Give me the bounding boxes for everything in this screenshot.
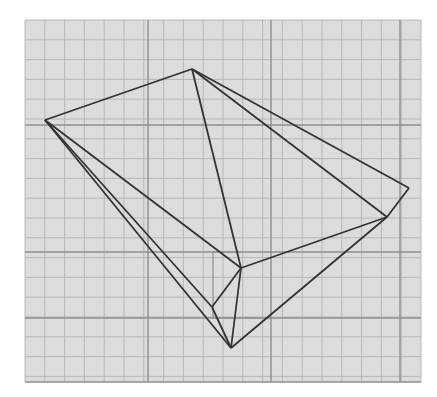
diagram-canvas	[0, 0, 437, 397]
minor-grid-lines	[25, 20, 421, 382]
